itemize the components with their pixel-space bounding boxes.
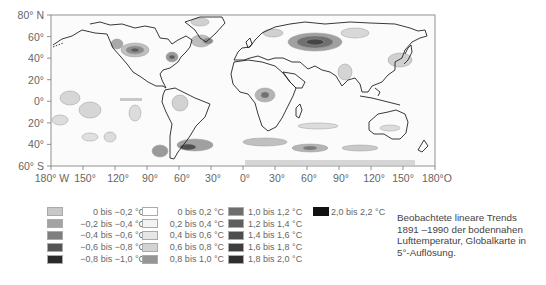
legend-swatch	[313, 207, 329, 216]
x-tick-label: 30°	[205, 172, 221, 184]
legend-item: 0,4 bis 0,6 °C	[142, 230, 224, 242]
x-tick-label: 180° W	[35, 172, 70, 184]
legend-label: 0 bis −0,2 °C	[67, 207, 145, 217]
legend-swatch	[228, 243, 244, 252]
legend-swatch	[142, 219, 158, 228]
legend-column-negative: 0 bis −0,2 °C −0,2 bis −0,4 °C −0,4 bis …	[47, 206, 145, 265]
x-tick-label: 60°	[174, 172, 190, 184]
legend-item: 1,6 bis 1,8 °C	[228, 241, 302, 253]
legend-swatch	[142, 207, 158, 216]
legend-label: 0,4 bis 0,6 °C	[162, 230, 224, 240]
legend-swatch	[228, 231, 244, 240]
legend-item: 0,2 bis 0,4 °C	[142, 218, 224, 230]
legend-item: 0,6 bis 0,8 °C	[142, 241, 224, 253]
legend-label: 1,0 bis 1,2 °C	[248, 207, 302, 217]
legend-label: −0,4 bis −0,6 °C	[67, 230, 145, 240]
caption-line: Lufttemperatur, Globalkarte in	[397, 235, 546, 247]
y-tick-label: 80° N	[0, 9, 44, 21]
x-tick-label: 150°	[74, 172, 96, 184]
legend-label: 1,6 bis 1,8 °C	[248, 242, 302, 252]
y-tick-label: 40°	[0, 52, 44, 64]
caption-line: Beobachtete lineare Trends	[397, 212, 546, 224]
legend-item: −0,6 bis −0,8 °C	[47, 241, 145, 253]
legend-item: 0 bis 0,2 °C	[142, 206, 224, 218]
legend-item: 0 bis −0,2 °C	[47, 206, 145, 218]
legend-column-positive-high: 1,0 bis 1,2 °C 1,2 bis 1,4 °C 1,4 bis 1,…	[228, 206, 302, 265]
legend-item: −0,8 bis −1,0 °C	[47, 253, 145, 265]
x-tick-label: 120°	[363, 172, 385, 184]
legend-label: 2,0 bis 2,2 °C	[331, 207, 385, 217]
legend-item: 1,0 bis 1,2 °C	[228, 206, 302, 218]
x-tick-label: 180°O	[422, 172, 452, 184]
legend-item: −0,2 bis −0,4 °C	[47, 218, 145, 230]
x-axis-ticks	[51, 166, 435, 170]
legend-swatch	[142, 231, 158, 240]
x-tick-label: 120°	[107, 172, 129, 184]
legend-swatch	[47, 219, 63, 228]
legend-swatch	[47, 255, 63, 264]
map-caption: Beobachtete lineare Trends 1891 –1990 de…	[397, 212, 546, 258]
legend-item: 1,2 bis 1,4 °C	[228, 218, 302, 230]
x-tick-label: 0°	[240, 172, 250, 184]
legend-label: 1,2 bis 1,4 °C	[248, 219, 302, 229]
y-tick-label: 60° S	[0, 160, 44, 172]
legend-label: 0,8 bis 1,0 °C	[162, 254, 224, 264]
legend-label: 0,6 bis 0,8 °C	[162, 242, 224, 252]
legend-label: 0,2 bis 0,4 °C	[162, 219, 224, 229]
legend-swatch	[228, 207, 244, 216]
y-tick-label: 40°	[0, 138, 44, 150]
y-tick-label: 20°	[0, 74, 44, 86]
legend-swatch	[228, 255, 244, 264]
x-tick-label: 90°	[142, 172, 158, 184]
legend-swatch	[47, 207, 63, 216]
legend-item: 1,8 bis 2,0 °C	[228, 253, 302, 265]
legend-swatch	[47, 231, 63, 240]
legend-item: 2,0 bis 2,2 °C	[313, 206, 385, 218]
caption-line: 1891 –1990 der bodennahen	[397, 224, 546, 236]
y-axis-ticks	[47, 15, 51, 166]
y-tick-label: 20°	[0, 117, 44, 129]
y-tick-label: 60°	[0, 31, 44, 43]
legend-label: −0,6 bis −0,8 °C	[67, 242, 145, 252]
legend-item: −0,4 bis −0,6 °C	[47, 230, 145, 242]
legend-label: −0,8 bis −1,0 °C	[67, 254, 145, 264]
legend-item: 1,4 bis 1,6 °C	[228, 230, 302, 242]
legend-column-positive-low: 0 bis 0,2 °C 0,2 bis 0,4 °C 0,4 bis 0,6 …	[142, 206, 224, 265]
legend-item: 0,8 bis 1,0 °C	[142, 253, 224, 265]
x-tick-label: 150°	[392, 172, 414, 184]
x-tick-label: 30°	[269, 172, 285, 184]
legend-column-max: 2,0 bis 2,2 °C	[313, 206, 385, 218]
x-tick-label: 60°	[301, 172, 317, 184]
legend-label: 1,8 bis 2,0 °C	[248, 254, 302, 264]
legend-swatch	[142, 255, 158, 264]
world-temperature-trend-map	[0, 0, 546, 200]
y-tick-label: 0°	[0, 95, 44, 107]
legend-label: 0 bis 0,2 °C	[162, 207, 224, 217]
legend-label: −0,2 bis −0,4 °C	[67, 219, 145, 229]
x-tick-label: 90°	[333, 172, 349, 184]
legend-swatch	[47, 243, 63, 252]
legend-swatch	[228, 219, 244, 228]
legend-label: 1,4 bis 1,6 °C	[248, 230, 302, 240]
caption-line: 5°-Auflösung.	[397, 247, 546, 259]
legend-swatch	[142, 243, 158, 252]
